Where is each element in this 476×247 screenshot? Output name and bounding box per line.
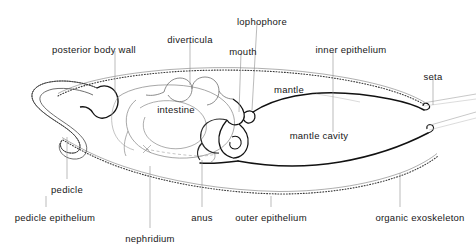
intestine-outline <box>118 85 235 162</box>
ventral-organic-exoskeleton <box>62 138 438 195</box>
label-outer-epithelium: outer epithelium <box>235 213 307 223</box>
label-seta: seta <box>424 72 443 82</box>
label-pedicle: pedicle <box>51 185 83 195</box>
label-posterior-body-wall: posterior body wall <box>52 45 136 55</box>
posterior-body-wall-outline <box>80 86 118 118</box>
dorsal-seta <box>423 94 476 110</box>
leader-line-mouth <box>239 53 241 112</box>
diverticula-outline <box>146 77 233 105</box>
label-anus: anus <box>191 213 213 223</box>
pedicle-structure <box>32 81 97 159</box>
dorsal-mantle-outline <box>253 93 424 112</box>
inner-epithelium-marker <box>316 94 360 102</box>
ventral-seta <box>427 112 476 133</box>
label-inner-epithelium: inner epithelium <box>315 45 386 55</box>
label-lophophore: lophophore <box>237 17 287 27</box>
label-organic-exoskeleton: organic exoskeleton <box>375 213 464 223</box>
label-intestine: intestine <box>157 105 195 115</box>
dorsal-organic-exoskeleton <box>58 68 425 105</box>
label-mouth: mouth <box>229 47 257 57</box>
label-mantle-cavity: mantle cavity <box>290 131 349 141</box>
label-mantle: mantle <box>274 85 304 95</box>
brachiopod-anatomy-diagram <box>0 0 476 247</box>
leader-line-lophophore <box>252 23 257 110</box>
label-pedicle-epithelium: pedicle epithelium <box>15 213 96 223</box>
label-diverticula: diverticula <box>167 35 213 45</box>
label-nephridium: nephridium <box>125 234 175 244</box>
